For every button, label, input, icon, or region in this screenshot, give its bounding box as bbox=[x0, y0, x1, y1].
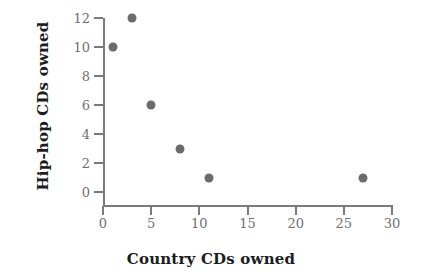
x-axis-tick-label: 30 bbox=[384, 217, 401, 230]
y-axis-tick-label: 6 bbox=[82, 99, 90, 112]
x-axis-title: Country CDs owned bbox=[0, 250, 422, 268]
y-axis-tick bbox=[94, 75, 103, 77]
scatter-chart: 024681012 051015202530 Hip-hop CDs owned… bbox=[0, 0, 422, 279]
data-point bbox=[147, 101, 156, 110]
data-point bbox=[359, 173, 368, 182]
y-axis-tick bbox=[94, 104, 103, 106]
x-axis-tick-label: 0 bbox=[99, 217, 107, 230]
x-axis-tick-label: 5 bbox=[147, 217, 155, 230]
x-axis-tick-label: 25 bbox=[336, 217, 353, 230]
y-axis-tick-label: 8 bbox=[82, 70, 90, 83]
x-axis-tick-label: 20 bbox=[287, 217, 304, 230]
y-axis-tick-label: 10 bbox=[73, 41, 90, 54]
y-axis-tick-label: 2 bbox=[82, 157, 90, 170]
x-axis-tick bbox=[198, 206, 200, 215]
x-axis-tick bbox=[295, 206, 297, 215]
y-axis-title: Hip-hop CDs owned bbox=[34, 11, 52, 201]
data-point bbox=[127, 14, 136, 23]
x-axis-tick bbox=[343, 206, 345, 215]
y-axis-tick-label: 0 bbox=[82, 186, 90, 199]
x-axis-tick bbox=[102, 206, 104, 215]
data-point bbox=[204, 173, 213, 182]
x-axis-tick bbox=[150, 206, 152, 215]
y-axis-tick bbox=[94, 162, 103, 164]
y-axis-tick bbox=[94, 133, 103, 135]
x-axis-tick-label: 15 bbox=[239, 217, 256, 230]
data-point bbox=[108, 43, 117, 52]
y-axis-tick bbox=[94, 191, 103, 193]
y-axis-tick bbox=[94, 46, 103, 48]
y-axis-tick bbox=[94, 17, 103, 19]
x-axis-tick bbox=[391, 206, 393, 215]
x-axis-tick bbox=[247, 206, 249, 215]
y-axis-tick-label: 12 bbox=[73, 12, 90, 25]
y-axis-line bbox=[103, 18, 105, 207]
y-axis-tick-label: 4 bbox=[82, 128, 90, 141]
x-axis-tick-label: 10 bbox=[191, 217, 208, 230]
data-point bbox=[176, 144, 185, 153]
